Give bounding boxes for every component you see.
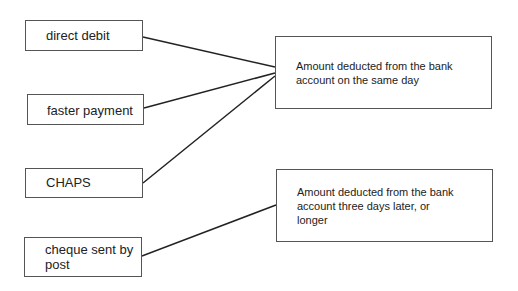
- line-direct-debit-same-day: [143, 37, 275, 67]
- box-same-day: Amount deducted from the bank account on…: [275, 36, 492, 109]
- box-faster-payment: faster payment: [27, 94, 144, 125]
- label-same-day: Amount deducted from the bank account on…: [296, 59, 453, 87]
- line-chaps-same-day: [143, 76, 275, 183]
- box-direct-debit: direct debit: [25, 20, 143, 51]
- label-faster-payment: faster payment: [47, 103, 133, 118]
- label-cheque: cheque sent by post: [45, 242, 133, 272]
- box-chaps: CHAPS: [25, 168, 143, 198]
- box-three-days: Amount deducted from the bank account th…: [276, 169, 493, 242]
- label-chaps: CHAPS: [46, 175, 91, 190]
- label-three-days: Amount deducted from the bank account th…: [297, 185, 454, 227]
- line-faster-payment-same-day: [144, 73, 275, 108]
- box-cheque: cheque sent by post: [24, 237, 142, 277]
- line-cheque-three-days: [142, 205, 276, 256]
- label-direct-debit: direct debit: [46, 28, 110, 43]
